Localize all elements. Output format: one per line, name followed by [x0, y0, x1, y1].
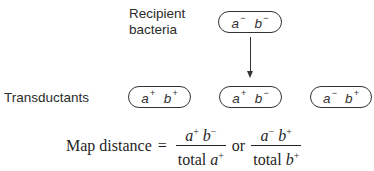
transductants-label: Transductants [4, 90, 89, 106]
transductant-capsule: a+ b+ [128, 86, 191, 108]
allele-a: a− [323, 89, 337, 106]
map-distance-formula: Map distance = a+ b− total a+ or a− b+ t… [66, 122, 304, 170]
transductant-capsule: a+ b− [219, 86, 282, 108]
or-text: or [232, 137, 245, 155]
recipient-genotype-capsule: a− b− [218, 11, 282, 33]
allele-b: b+ [164, 89, 178, 106]
allele-b: b+ [345, 89, 359, 106]
allele-a: a+ [141, 89, 155, 106]
fraction-a-numerator: a+ b− [183, 122, 218, 145]
formula-lhs: Map distance [66, 137, 152, 155]
allele-a: a− [232, 14, 246, 31]
fraction-b: a− b+ total b+ [251, 122, 301, 170]
equals-sign: = [158, 137, 167, 155]
allele-b: b− [255, 14, 269, 31]
recipient-label-line1: Recipient [129, 6, 185, 22]
fraction-a-denominator: total a+ [176, 146, 226, 169]
transductant-capsule: a− b+ [310, 86, 372, 108]
allele-b: b− [255, 89, 269, 106]
recipient-bacteria-label: Recipient bacteria [129, 6, 185, 38]
allele-a: a+ [232, 89, 246, 106]
fraction-a: a+ b− total a+ [176, 122, 226, 170]
recipient-label-line2: bacteria [129, 22, 185, 38]
fraction-b-denominator: total b+ [251, 146, 301, 169]
fraction-b-numerator: a− b+ [259, 122, 294, 145]
